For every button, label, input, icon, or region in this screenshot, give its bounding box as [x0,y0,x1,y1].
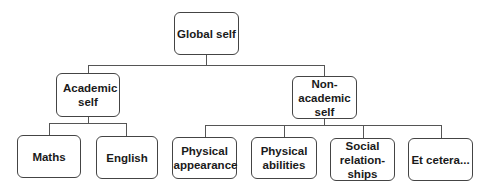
connector-to-nonacademic [324,65,325,76]
node-label: Non- academic self [298,77,350,119]
node-global-self: Global self [174,12,239,55]
node-social-relationships: Social relation- ships [330,138,395,181]
connector-to-appearance [205,125,206,137]
connector-to-academic [88,65,89,73]
connector-to-social [363,125,364,138]
node-english: English [96,136,158,179]
connector-to-maths [49,123,50,135]
node-physical-abilities: Physical abilities [251,137,317,179]
node-academic-self: Academic self [56,73,120,117]
node-maths: Maths [17,135,81,178]
node-et-cetera: Et cetera... [408,138,473,181]
node-label: English [106,151,148,165]
node-label: Academic self [63,81,113,109]
connector-root-down [206,55,207,65]
connector-level1-bar [88,65,325,66]
connector-to-abilities [284,125,285,137]
connector-to-english [126,123,127,136]
connector-academic-bar [49,123,127,124]
node-label: Physical appearance [174,144,236,172]
node-label: Maths [32,150,65,164]
node-non-academic-self: Non- academic self [292,76,357,119]
connector-nonacademic-bar [205,125,442,126]
node-label: Physical abilities [259,144,309,172]
connector-to-etcetera [441,125,442,138]
node-physical-appearance: Physical appearance [172,137,237,179]
node-label: Et cetera... [411,153,469,167]
node-label: Global self [177,27,236,41]
node-label: Social relation- ships [340,139,385,181]
